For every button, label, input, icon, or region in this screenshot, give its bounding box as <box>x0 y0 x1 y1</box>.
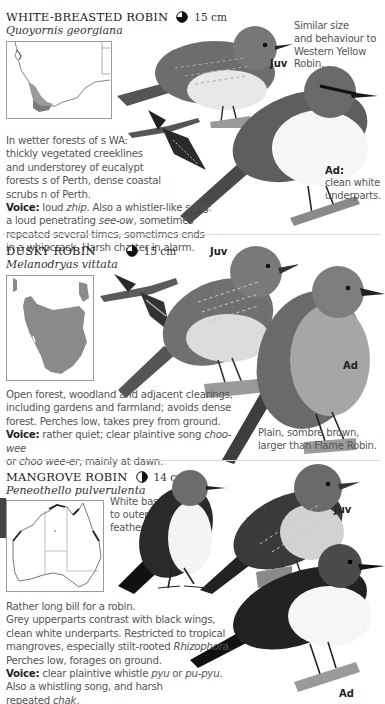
species-mangrove-robin: MANGROVE ROBIN 14 cm Peneothello pulveru… <box>0 462 385 704</box>
desc-line: including gardens and farmland; avoids d… <box>6 401 246 414</box>
voice-line: Voice: loud zhip. Also a whistler-like s… <box>6 201 256 214</box>
voice-text: clear plaintive whistle pyu or pu-pyu. <box>42 668 222 679</box>
desc-line: Rather long bill for a robin. <box>6 600 246 613</box>
side-note: Similar size and behaviour to Western Ye… <box>294 20 376 71</box>
desc-line: scrubs n of Perth. <box>6 188 256 201</box>
note-line: Plain, sombre brown, <box>258 427 377 440</box>
desc-line: Open forest, woodland and adjacent clear… <box>6 388 246 401</box>
voice-text: a loud penetrating see-ow, sometimes <box>6 214 256 227</box>
note-line: Similar size <box>294 20 376 33</box>
desc-line: and understorey of eucalypt <box>6 161 256 174</box>
desc-line: clean white underparts. Restricted to tr… <box>6 627 246 640</box>
species-description: Rather long bill for a robin. Grey upper… <box>6 600 246 704</box>
species-white-breasted-robin: WHITE-BREASTED ROBIN 15 cm Quoyornis geo… <box>0 0 385 232</box>
adult-label: Ad: <box>325 165 344 176</box>
juvenile-label: Juv <box>334 504 351 515</box>
voice-line: Voice: rather quiet; clear plaintive son… <box>6 428 246 455</box>
voice-text: repeated chak. <box>6 694 246 704</box>
voice-label: Voice: <box>6 429 39 440</box>
note-line: larger than Flame Robin. <box>258 440 377 453</box>
range-map-graphic <box>7 276 93 380</box>
desc-line: In wetter forests of s WA: <box>6 134 256 147</box>
desc-line: Perches low, forages on ground. <box>6 654 246 667</box>
range-map-graphic <box>7 42 111 118</box>
voice-label: Voice: <box>6 202 39 213</box>
note-line: Western Yellow <box>294 46 376 59</box>
voice-text: Also a whistling song, and harsh <box>6 680 246 693</box>
section-divider <box>3 234 380 235</box>
range-map-australia <box>6 500 104 592</box>
desc-line: Grey upperparts contrast with black wing… <box>6 613 246 626</box>
common-name: MANGROVE ROBIN <box>6 470 128 484</box>
adult-label: Ad <box>339 688 354 699</box>
range-map-graphic <box>7 501 103 591</box>
species-description: Open forest, woodland and adjacent clear… <box>6 388 246 468</box>
desc-line: thickly vegetated creeklines <box>6 147 256 160</box>
voice-text: rather quiet; clear plaintive song choo-… <box>6 429 231 453</box>
scientific-name: Quoyornis georgiana <box>6 24 123 37</box>
juvenile-label: Juv <box>210 246 227 257</box>
voice-label: Voice: <box>6 668 39 679</box>
page-edge-mask <box>0 598 6 704</box>
voice-text: loud zhip. Also a whistler-like song: <box>42 202 211 213</box>
desc-line: forests s of Perth, dense coastal <box>6 174 256 187</box>
note-line: underparts. <box>325 190 381 203</box>
adult-note: clean white underparts. <box>325 177 381 203</box>
range-map-sw-wa <box>6 41 112 119</box>
desc-line: mangroves, especially stilt-rooted Rhizo… <box>6 640 246 653</box>
range-map-tasmania <box>6 275 94 381</box>
adult-note: Plain, sombre brown, larger than Flame R… <box>258 427 377 453</box>
section-divider <box>3 460 380 461</box>
voice-line: Voice: clear plaintive whistle pyu or pu… <box>6 667 246 680</box>
adult-label: Ad <box>343 360 358 371</box>
species-dusky-robin: DUSKY ROBIN 15 cm Melanodryas vittata Ju… <box>0 236 385 462</box>
common-name: DUSKY ROBIN <box>6 244 96 258</box>
note-line: clean white <box>325 177 381 190</box>
note-line: and behaviour to <box>294 33 376 46</box>
desc-line: forest. Perches low, takes prey from gro… <box>6 415 246 428</box>
